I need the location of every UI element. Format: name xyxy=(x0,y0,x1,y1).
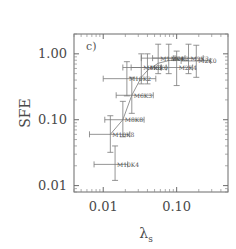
y-tick-label: 0.01 xyxy=(38,178,67,193)
point-label: M10K4 xyxy=(117,161,139,168)
point-label: M2K4 xyxy=(179,64,197,71)
x-tick-label: 0.01 xyxy=(89,199,118,214)
point-label: M10K2 xyxy=(129,75,151,82)
point-label: M6K3 xyxy=(134,92,152,99)
x-axis-title: λs xyxy=(139,225,153,244)
panel-label: c) xyxy=(86,40,96,53)
figure-panel-c: 0.010.100.010.101.00 M10K4M10K8M8K8M6K3M… xyxy=(0,0,236,249)
point-label: M2K2 xyxy=(171,55,189,62)
x-tick-label: 0.10 xyxy=(162,199,191,214)
point-label: M8K8 xyxy=(125,116,143,123)
sfe-vs-lambda-s-plot: 0.010.100.010.101.00 M10K4M10K8M8K8M6K3M… xyxy=(0,0,236,249)
point-label: M6K0 xyxy=(149,64,167,71)
point-label: M10K8 xyxy=(112,131,134,138)
y-tick-label: 0.10 xyxy=(38,112,67,127)
x-axis-title-main: λ xyxy=(139,225,148,241)
point-label: M2K0 xyxy=(198,57,216,64)
y-tick-label: 1.00 xyxy=(38,46,67,61)
point-labels: M10K4M10K8M8K8M6K3M10K2M4K0M6K0M1.2K4M2K… xyxy=(112,55,216,168)
y-axis-title: SFE xyxy=(17,98,33,128)
x-axis-title-sub: s xyxy=(148,234,153,244)
